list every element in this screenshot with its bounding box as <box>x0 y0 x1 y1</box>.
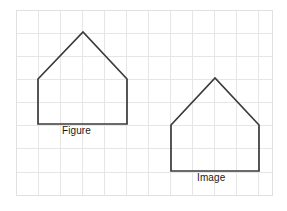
figure-label: Figure <box>62 125 91 136</box>
figure-polygon <box>38 32 127 124</box>
image-polygon <box>171 78 259 171</box>
image-label: Image <box>197 172 225 183</box>
diagram-canvas: Figure Image <box>0 0 287 211</box>
shapes-layer <box>0 0 287 211</box>
